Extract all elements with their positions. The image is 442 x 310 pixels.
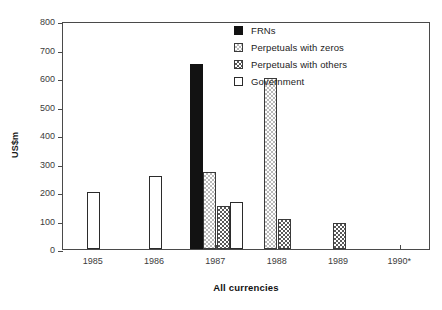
y-tick: 400 xyxy=(33,137,63,138)
legend-swatch-zeros-icon xyxy=(234,43,243,52)
bar-1987-frns xyxy=(190,64,203,249)
y-tick-mark xyxy=(58,223,63,224)
y-tick: 300 xyxy=(33,166,63,167)
legend-item-zeros: Perpetuals with zeros xyxy=(234,39,347,55)
y-tick-label: 0 xyxy=(50,245,55,255)
legend-item-others: Perpetuals with others xyxy=(234,56,347,72)
x-tick-label: 1988 xyxy=(267,256,287,266)
y-axis-title: US$m xyxy=(6,105,24,185)
x-axis-title: All currencies xyxy=(62,282,430,293)
x-tick-mark xyxy=(400,245,401,250)
bar-1988-zeros xyxy=(264,78,277,249)
legend-item-frns: FRNs xyxy=(234,22,347,38)
bar-1987-zeros xyxy=(203,172,216,249)
y-tick: 800 xyxy=(33,23,63,24)
y-tick: 0 xyxy=(33,251,63,252)
y-tick: 500 xyxy=(33,109,63,110)
y-tick-label: 500 xyxy=(40,103,55,113)
y-tick-label: 700 xyxy=(40,46,55,56)
bar-1989-others xyxy=(333,223,346,249)
y-tick-mark xyxy=(58,109,63,110)
y-tick-mark xyxy=(58,80,63,81)
legend-label-frns: FRNs xyxy=(251,25,276,36)
y-tick-mark xyxy=(58,251,63,252)
legend-label-government: Government xyxy=(251,76,304,87)
y-tick-mark xyxy=(58,194,63,195)
x-tick-label: 1989 xyxy=(328,256,348,266)
legend-label-others: Perpetuals with others xyxy=(251,59,347,70)
y-tick-label: 600 xyxy=(40,74,55,84)
x-tick-label: 1990* xyxy=(388,256,412,266)
x-tick-label: 1985 xyxy=(83,256,103,266)
y-tick-label: 400 xyxy=(40,131,55,141)
y-tick: 700 xyxy=(33,52,63,53)
y-tick-mark xyxy=(58,137,63,138)
chart-legend: FRNsPerpetuals with zerosPerpetuals with… xyxy=(232,20,349,92)
bar-chart-figure: US$m 0100200300400500600700800 198519861… xyxy=(0,0,442,310)
y-tick-mark xyxy=(58,166,63,167)
legend-swatch-others-icon xyxy=(234,60,243,69)
legend-item-government: Government xyxy=(234,73,347,89)
y-tick: 600 xyxy=(33,80,63,81)
y-tick: 100 xyxy=(33,223,63,224)
y-tick-mark xyxy=(58,23,63,24)
y-tick: 200 xyxy=(33,194,63,195)
bar-1988-others xyxy=(278,219,291,249)
bar-1987-others xyxy=(217,206,230,249)
y-tick-label: 800 xyxy=(40,17,55,27)
x-tick-label: 1987 xyxy=(205,256,225,266)
legend-label-zeros: Perpetuals with zeros xyxy=(251,42,344,53)
bar-1985-government xyxy=(87,192,100,249)
y-tick-mark xyxy=(58,52,63,53)
legend-swatch-frns-icon xyxy=(234,26,243,35)
bar-1987-government xyxy=(230,202,243,249)
y-tick-label: 300 xyxy=(40,160,55,170)
bar-1986-government xyxy=(149,176,162,249)
x-tick-label: 1986 xyxy=(144,256,164,266)
y-tick-label: 100 xyxy=(40,217,55,227)
y-tick-label: 200 xyxy=(40,188,55,198)
legend-swatch-government-icon xyxy=(234,77,243,86)
